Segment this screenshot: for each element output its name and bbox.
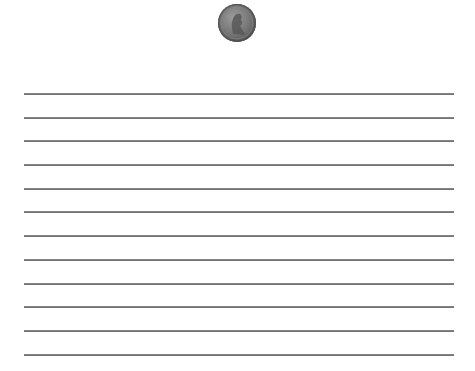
writing-line — [24, 306, 454, 308]
writing-line — [24, 354, 454, 356]
writing-line — [24, 330, 454, 332]
writing-line — [24, 283, 454, 285]
writing-line — [24, 235, 454, 237]
writing-line — [24, 211, 454, 213]
writing-line — [24, 117, 454, 119]
writing-line — [24, 259, 454, 261]
writing-line — [24, 93, 454, 95]
writing-line — [24, 164, 454, 166]
writing-lines — [24, 0, 454, 371]
writing-line — [24, 188, 454, 190]
writing-line — [24, 140, 454, 142]
